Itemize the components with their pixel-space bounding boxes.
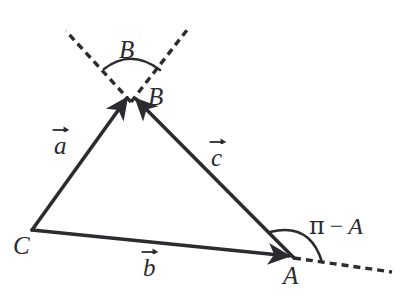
vector-label-a-text: a bbox=[54, 133, 67, 158]
vector-label-b-wrap: b bbox=[143, 253, 156, 280]
vector-label-c-wrap: c bbox=[211, 143, 222, 170]
vector-triangle-diagram: B B C A a b c bbox=[0, 0, 411, 304]
vertex-label-a: A bbox=[283, 263, 298, 288]
vector-label-a: a bbox=[54, 131, 67, 158]
vector-c-line bbox=[136, 99, 294, 258]
vector-b-line bbox=[32, 230, 289, 256]
vector-a-line bbox=[32, 98, 127, 230]
vertex-label-c: C bbox=[13, 233, 30, 258]
minus-symbol: − bbox=[325, 213, 349, 239]
pi-symbol: π bbox=[309, 212, 325, 240]
angle-variable-a: A bbox=[348, 213, 363, 239]
vector-label-a-wrap: a bbox=[54, 131, 67, 158]
vector-label-b-text: b bbox=[143, 255, 156, 280]
vector-label-b: b bbox=[143, 253, 156, 280]
vertex-label-b: B bbox=[148, 84, 163, 109]
angle-label-pi-minus-a: π−A bbox=[309, 214, 363, 238]
vector-label-c: c bbox=[211, 143, 222, 170]
angle-label-b: B bbox=[119, 37, 134, 62]
dashed-ray-right-from-a bbox=[294, 258, 392, 272]
vector-label-c-text: c bbox=[211, 145, 222, 170]
